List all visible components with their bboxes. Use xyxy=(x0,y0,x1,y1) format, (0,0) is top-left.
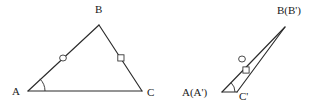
vertex-label-a-prime: A(A') xyxy=(182,86,208,99)
triangle-abc-prime-group: A(A') B(B') C' xyxy=(182,4,301,102)
vertex-label-a: A xyxy=(12,85,20,97)
vertex-label-b: B xyxy=(95,3,102,15)
vertex-label-b-prime: B(B') xyxy=(277,4,301,17)
tick-mark-ab-prime-circle xyxy=(239,56,246,62)
angle-mark-a xyxy=(40,79,45,91)
angle-mark-a-prime xyxy=(231,83,235,92)
vertex-label-c-prime: C' xyxy=(239,90,248,102)
tick-mark-bc-square xyxy=(118,55,124,61)
tick-mark-cb-prime-square xyxy=(243,67,249,73)
tick-mark-ab-circle xyxy=(60,55,67,61)
triangle-abc-group: A B C xyxy=(12,3,154,98)
geometry-figure: A B C A(A') B(B') C' xyxy=(0,0,328,111)
geometry-canvas: A B C A(A') B(B') C' xyxy=(0,0,328,111)
segment-ab-prime xyxy=(222,27,285,92)
vertex-label-c: C xyxy=(147,86,154,98)
